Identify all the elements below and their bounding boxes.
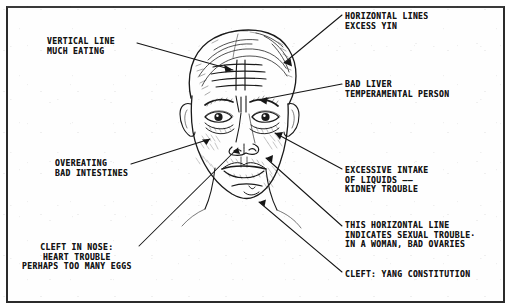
ear-left-inner <box>185 110 187 128</box>
annotation-cleft-yang: CLEFT: YANG CONSTITUTION <box>345 270 470 280</box>
undereye-bag-right <box>250 123 279 134</box>
ear-right <box>284 104 299 137</box>
leader-excessive-liquids <box>275 133 342 169</box>
annotation-overeating: OVEREATING BAD INTESTINES <box>55 159 128 178</box>
sub-lip-horizontal-line <box>232 184 262 186</box>
ear-right-inner <box>292 110 294 128</box>
annotation-horizontal-lines: HORIZONTAL LINES EXCESS YIN <box>345 12 429 31</box>
nose-bridge <box>236 113 241 142</box>
mouth-line <box>222 166 266 169</box>
glabella-creases <box>236 96 246 112</box>
eye-right <box>252 111 280 123</box>
leader-lines <box>131 15 342 272</box>
hair-part <box>233 34 238 58</box>
annotation-vertical-line: VERTICAL LINE MUCH EATING <box>47 37 115 56</box>
left-jaw-shading <box>196 152 215 170</box>
forehead-horizontal-lines <box>211 64 266 87</box>
annotation-sexual-trouble: THIS HORIZONTAL LINE INDICATES SEXUAL TR… <box>345 221 476 250</box>
annotation-bad-liver: BAD LIVER TEMPERAMENTAL PERSON <box>345 80 449 99</box>
cheek-shading-left <box>200 134 220 150</box>
diagram-page: VERTICAL LINE MUCH EATING HORIZONTAL LIN… <box>0 0 513 305</box>
leader-cleft-in-nose <box>139 148 238 246</box>
face-outline <box>191 96 288 198</box>
leader-sexual-trouble <box>266 158 342 226</box>
leader-bad-liver <box>259 84 342 100</box>
annotation-cleft-in-nose: CLEFT IN NOSE: HEART TROUBLE PERHAPS TOO… <box>22 243 132 272</box>
leader-cleft-yang <box>259 202 342 272</box>
chin-cleft <box>244 186 259 195</box>
eyebrow-left <box>205 100 233 105</box>
shoulder-hint <box>182 209 301 228</box>
annotation-excessive-liquids: EXCESSIVE INTAKE OF LIQUIDS —— KIDNEY TR… <box>345 166 429 195</box>
eye-left <box>205 111 233 123</box>
